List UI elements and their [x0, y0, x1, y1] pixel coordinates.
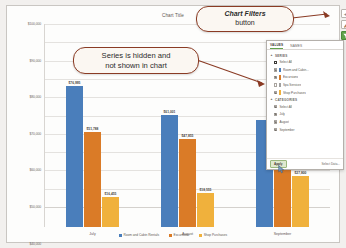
filter-item[interactable]: August — [270, 118, 340, 126]
checkbox-icon[interactable] — [274, 91, 277, 94]
checkbox-icon[interactable] — [274, 76, 277, 79]
collapse-caret-icon[interactable]: ▲ — [270, 98, 273, 101]
bar[interactable]: $51,788 — [84, 132, 101, 227]
filter-icon — [343, 33, 346, 39]
filter-item[interactable]: September — [270, 126, 340, 134]
series-color-swatch — [279, 90, 281, 94]
screenshot-root: Chart Title $100,000$90,000$80,000$70,00… — [0, 0, 346, 248]
bar[interactable]: $27,800 — [292, 176, 309, 227]
legend-label: Excursions — [174, 233, 190, 237]
bar[interactable]: $16,455 — [102, 197, 119, 227]
callout-hidden-line1: Series is hidden and — [102, 51, 171, 60]
brush-icon — [343, 22, 346, 28]
y-axis-tick-label: $90,000 — [29, 59, 41, 63]
y-axis-tick-label: $70,000 — [29, 132, 41, 136]
filter-item[interactable]: Spa Services — [270, 81, 340, 89]
legend-label: Room and Cabin Rentals — [123, 233, 159, 237]
legend-item[interactable]: Room and Cabin Rentals — [119, 233, 159, 237]
legend-swatch — [169, 234, 172, 237]
filter-item-label: July — [279, 112, 285, 116]
legend-item[interactable]: Shop Purchases — [199, 233, 227, 237]
filter-item-label: September — [279, 128, 294, 132]
bar-value-label: $27,800 — [295, 171, 307, 175]
filter-item[interactable]: Excursions — [270, 74, 340, 82]
filter-item[interactable]: Select All — [270, 103, 340, 111]
filter-item-label: Excursions — [283, 75, 298, 79]
chart-side-buttons: + — [341, 9, 346, 40]
callout-filters-rest: button — [235, 19, 254, 26]
mouse-cursor — [278, 165, 285, 174]
filter-item-label: Select All — [279, 105, 292, 109]
filter-section-header[interactable]: ▲SERIES — [270, 54, 340, 58]
chart-container[interactable]: Chart Title $100,000$90,000$80,000$70,00… — [6, 5, 340, 243]
filter-item-label: August — [279, 120, 289, 124]
filter-item-label: Shop Purchases — [283, 91, 306, 95]
bar[interactable]: $18,555 — [197, 193, 214, 227]
chart-styles-button[interactable] — [341, 20, 346, 29]
filter-panel-body[interactable]: ▲SERIESSelect AllRoom and Cabin...Excurs… — [267, 50, 343, 133]
y-axis-tick-label: $80,000 — [29, 95, 41, 99]
bar-value-label: $18,555 — [200, 188, 212, 192]
bar-value-label: $61,001 — [164, 110, 176, 114]
callout-hidden-line2: not shown in chart — [105, 61, 167, 70]
bar[interactable]: $61,001 — [161, 115, 178, 227]
bar-value-label: $51,788 — [87, 127, 99, 131]
bar[interactable]: $76,995 — [66, 86, 83, 227]
series-color-swatch — [279, 68, 281, 72]
filter-tab-names[interactable]: NAMES — [290, 44, 302, 49]
y-axis-tick-label: $60,000 — [29, 168, 41, 172]
checkbox-icon[interactable] — [274, 105, 277, 108]
checkbox-icon[interactable] — [274, 83, 277, 86]
filter-section-label: CATEGORIES — [275, 98, 297, 102]
filter-item[interactable]: Room and Cabin... — [270, 66, 340, 74]
checkbox-icon[interactable] — [274, 61, 277, 64]
y-axis-line — [44, 24, 45, 227]
callout-filters-emphasis: Chart Filters — [224, 10, 265, 17]
y-axis-tick-label: $100,000 — [28, 22, 41, 26]
filter-item-label: Select All — [279, 60, 292, 64]
legend-swatch — [199, 234, 202, 237]
series-color-swatch — [279, 75, 281, 79]
filter-tab-values[interactable]: VALUES — [270, 43, 283, 49]
filter-item[interactable]: Shop Purchases — [270, 89, 340, 97]
y-axis-tick-label: $50,000 — [29, 205, 41, 209]
legend-swatch — [119, 234, 122, 237]
chart-filters-panel[interactable]: VALUESNAMES ▲SERIESSelect AllRoom and Ca… — [266, 40, 344, 170]
chart-filters-button[interactable] — [341, 31, 346, 40]
bar-value-label: $47,855 — [182, 134, 194, 138]
callout-series-hidden: Series is hidden and not shown in chart — [73, 47, 199, 74]
callout-chart-filters: Chart Filters button — [196, 6, 294, 32]
filter-item[interactable]: Select All — [270, 59, 340, 67]
filter-item-label: Room and Cabin... — [283, 68, 309, 72]
checkbox-icon[interactable] — [274, 128, 277, 131]
bar-value-label: $16,455 — [105, 192, 117, 196]
bar-value-label: $76,995 — [69, 81, 81, 85]
collapse-caret-icon[interactable]: ▲ — [270, 54, 273, 57]
select-data-link[interactable]: Select Data... — [321, 162, 340, 166]
legend-label: Shop Purchases — [204, 233, 227, 237]
filter-item[interactable]: July — [270, 111, 340, 119]
checkbox-icon[interactable] — [274, 68, 277, 71]
filter-panel-tabs[interactable]: VALUESNAMES — [267, 41, 343, 50]
checkbox-icon[interactable] — [274, 120, 277, 123]
filter-section-label: SERIES — [275, 54, 288, 58]
filter-item-label: Spa Services — [283, 83, 301, 87]
series-color-swatch — [279, 83, 281, 87]
chart-elements-button[interactable]: + — [341, 9, 346, 18]
checkbox-icon[interactable] — [274, 113, 277, 116]
bar[interactable]: $47,855 — [179, 139, 196, 227]
legend-item[interactable]: Excursions — [169, 233, 189, 237]
filter-section-header[interactable]: ▲CATEGORIES — [270, 98, 340, 102]
y-axis-tick-label: $40,000 — [29, 242, 41, 246]
chart-legend[interactable]: Room and Cabin RentalsExcursionsShop Pur… — [7, 233, 339, 237]
